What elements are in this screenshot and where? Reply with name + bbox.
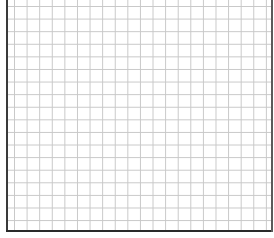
x-axis-line bbox=[6, 230, 273, 232]
chart-canvas bbox=[0, 0, 274, 238]
plot-area-grid bbox=[6, 0, 272, 231]
y-axis-line bbox=[6, 0, 8, 232]
right-frame-line bbox=[271, 0, 273, 232]
